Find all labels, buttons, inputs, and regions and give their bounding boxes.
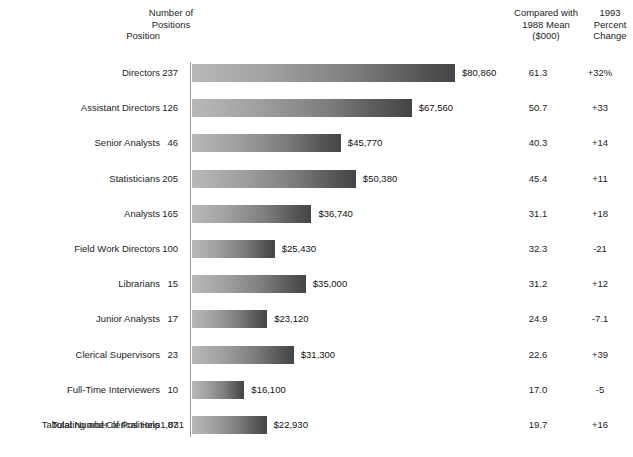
position-label: Librarians <box>10 275 160 293</box>
number-of-positions-value: 165 <box>150 205 178 223</box>
compared-with-1988-mean-value: 31.2 <box>508 275 568 293</box>
bar <box>192 99 412 117</box>
percent-change-value: -5 <box>578 381 622 399</box>
bar-value-label: $16,100 <box>251 381 285 399</box>
bar-value-label: $80,860 <box>462 64 496 82</box>
compared-with-1988-mean-value: 24.9 <box>508 310 568 328</box>
total-row: Total Number of Positions 1,031 <box>0 416 633 434</box>
bar-value-label: $50,380 <box>363 170 397 188</box>
percent-change-value: +18 <box>578 205 622 223</box>
compared-with-1988-mean-value: 32.3 <box>508 240 568 258</box>
table-row: Senior Analysts46$45,77040.3+14 <box>0 134 633 152</box>
table-row: Clerical Supervisors23$31,30022.6+39 <box>0 346 633 364</box>
percent-change-value: +14 <box>578 134 622 152</box>
position-label: Clerical Supervisors <box>10 346 160 364</box>
table-row: Analysts165$36,74031.1+18 <box>0 205 633 223</box>
number-of-positions-value: 237 <box>150 64 178 82</box>
column-header-number-of-positions: Number of Positions <box>140 7 202 30</box>
percent-change-value: -7.1 <box>578 310 622 328</box>
number-of-positions-value: 23 <box>150 346 178 364</box>
compared-with-1988-mean-value: 22.6 <box>508 346 568 364</box>
bar <box>192 134 341 152</box>
compared-with-1988-mean-value: 31.1 <box>508 205 568 223</box>
bar-value-label: $35,000 <box>313 275 347 293</box>
compared-with-1988-mean-value: 40.3 <box>508 134 568 152</box>
table-row: Junior Analysts17$23,12024.9-7.1 <box>0 310 633 328</box>
percent-change-value: +33 <box>578 99 622 117</box>
position-label: Assistant Directors <box>10 99 160 117</box>
column-header-position: Position <box>60 30 160 42</box>
percent-change-value: -21 <box>578 240 622 258</box>
percent-change-value: +32% <box>578 64 622 82</box>
percent-change-value: +39 <box>578 346 622 364</box>
number-of-positions-value: 126 <box>150 99 178 117</box>
bar <box>192 275 306 293</box>
number-of-positions-value: 17 <box>150 310 178 328</box>
compared-with-1988-mean-value: 50.7 <box>508 99 568 117</box>
table-row: Assistant Directors126$67,56050.7+33 <box>0 99 633 117</box>
bar-value-label: $36,740 <box>318 205 352 223</box>
bar-value-label: $23,120 <box>274 310 308 328</box>
position-label: Statisticians <box>10 170 160 188</box>
column-header-1993-percent-change: 1993 Percent Change <box>588 7 632 42</box>
bar <box>192 64 455 82</box>
position-label: Junior Analysts <box>10 310 160 328</box>
salary-survey-chart: Position Number of Positions Compared wi… <box>0 0 633 457</box>
percent-change-value: +12 <box>578 275 622 293</box>
bar-value-label: $25,430 <box>282 240 316 258</box>
bar <box>192 346 294 364</box>
number-of-positions-value: 10 <box>150 381 178 399</box>
number-of-positions-value: 205 <box>150 170 178 188</box>
position-label: Full-Time Interviewers <box>10 381 160 399</box>
compared-with-1988-mean-value: 17.0 <box>508 381 568 399</box>
bar <box>192 240 275 258</box>
table-row: Librarians15$35,00031.2+12 <box>0 275 633 293</box>
bar <box>192 310 267 328</box>
column-header-compared-with-1988-mean: Compared with 1988 Mean ($000) <box>492 7 600 42</box>
position-label: Directors <box>10 64 160 82</box>
compared-with-1988-mean-value: 61.3 <box>508 64 568 82</box>
number-of-positions-value: 46 <box>150 134 178 152</box>
bar-value-label: $67,560 <box>419 99 453 117</box>
table-row: Directors237$80,86061.3+32% <box>0 64 633 82</box>
position-label: Analysts <box>10 205 160 223</box>
bar-value-label: $45,770 <box>348 134 382 152</box>
bar <box>192 381 244 399</box>
total-label: Total Number of Positions <box>10 416 160 434</box>
table-row: Full-Time Interviewers10$16,10017.0-5 <box>0 381 633 399</box>
bar <box>192 170 356 188</box>
table-row: Field Work Directors100$25,43032.3-21 <box>0 240 633 258</box>
compared-with-1988-mean-value: 45.4 <box>508 170 568 188</box>
number-of-positions-value: 15 <box>150 275 178 293</box>
number-of-positions-value: 100 <box>150 240 178 258</box>
position-label: Senior Analysts <box>10 134 160 152</box>
bar-value-label: $31,300 <box>301 346 335 364</box>
percent-change-value: +11 <box>578 170 622 188</box>
bar <box>192 205 311 223</box>
total-value: 1,031 <box>150 416 184 434</box>
table-row: Statisticians205$50,38045.4+11 <box>0 170 633 188</box>
position-label: Field Work Directors <box>10 240 160 258</box>
